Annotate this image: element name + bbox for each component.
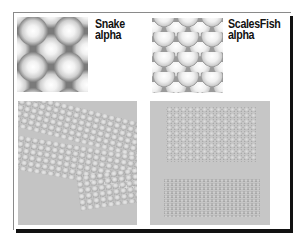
frame-shadow-right (290, 16, 293, 233)
snake-relief-render-image (18, 101, 137, 225)
fish-scale-small-area (164, 179, 260, 217)
snake-label-line2: alpha (95, 29, 125, 40)
fish-scales-alpha-image (152, 18, 223, 93)
snake-alpha-label: Snake alpha (95, 18, 125, 40)
fish-alpha-label: ScalesFish alpha (228, 18, 280, 40)
fish-scale-large-area (166, 107, 256, 162)
snake-alpha-image (17, 17, 88, 92)
fish-relief-render-image (150, 101, 270, 225)
frame-shadow-bottom (16, 229, 293, 233)
